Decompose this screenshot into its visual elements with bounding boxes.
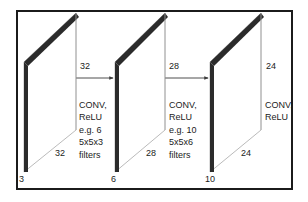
conv1-op-line-4: 5x5x3	[79, 136, 107, 148]
conv3-op-line-2: ReLU	[265, 111, 293, 123]
conv3-op-line-1: CONV,	[265, 99, 293, 111]
input-volume-shape	[24, 13, 79, 172]
label-v1-depth: 3	[19, 175, 24, 184]
figure-canvas: 32 28 24 32 28 24 3 6 10 CONV, ReLU e.g.…	[0, 0, 308, 202]
label-v1-top-width: 32	[80, 62, 90, 71]
conv2-volume-left-edge	[210, 62, 214, 172]
conv2-op-line-1: CONV,	[169, 99, 197, 111]
label-v2-bottom-width: 28	[146, 149, 156, 158]
label-v2-top-width: 28	[169, 62, 179, 71]
conv1-op-line-2: ReLU	[79, 111, 107, 123]
conv1-volume-shape	[115, 13, 168, 172]
label-v2-depth: 6	[111, 175, 116, 184]
label-v3-depth: 10	[205, 175, 215, 184]
label-v3-bottom-width: 24	[241, 149, 251, 158]
conv2-op-block: CONV, ReLU e.g. 10 5x5x6 filters	[169, 99, 197, 161]
conv2-op-line-4: 5x5x6	[169, 136, 197, 148]
conv2-volume-outline	[210, 13, 261, 172]
conv3-op-block: CONV, ReLU	[265, 99, 293, 124]
conv1-op-line-1: CONV,	[79, 99, 107, 111]
conv1-op-line-3: e.g. 6	[79, 124, 107, 136]
label-v1-bottom-width: 32	[55, 149, 65, 158]
conv2-op-line-5: filters	[169, 149, 197, 161]
conv2-volume-shape	[210, 13, 264, 172]
conv1-op-line-5: filters	[79, 149, 107, 161]
cnn-volume-diagram	[0, 0, 308, 202]
label-v3-top-width: 24	[266, 62, 276, 71]
input-volume-left-edge	[24, 62, 28, 172]
conv1-volume-left-edge	[115, 62, 119, 172]
input-volume-outline	[24, 13, 76, 172]
conv2-op-line-3: e.g. 10	[169, 124, 197, 136]
conv2-op-line-2: ReLU	[169, 111, 197, 123]
conv1-op-block: CONV, ReLU e.g. 6 5x5x3 filters	[79, 99, 107, 161]
conv1-volume-outline	[115, 13, 165, 172]
